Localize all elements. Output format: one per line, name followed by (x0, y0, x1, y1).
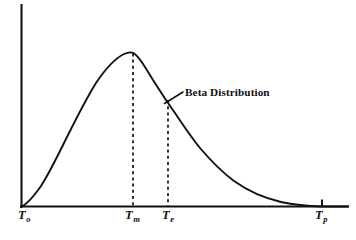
beta-distribution-chart (0, 0, 356, 240)
beta-distribution-figure: Beta Distribution To Tm Te Tp (0, 0, 356, 240)
axis-label-t-expected-sub: e (170, 214, 174, 224)
axis-label-t-most-likely-base: T (125, 208, 133, 222)
axis-label-t-optimistic-sub: o (26, 214, 30, 224)
axis-label-t-most-likely: Tm (125, 209, 139, 222)
axis-label-t-pessimistic: Tp (315, 209, 327, 222)
beta-density-curve (22, 52, 349, 206)
axis-label-t-optimistic: To (18, 209, 30, 222)
axis-label-t-pessimistic-base: T (315, 208, 323, 222)
axis-label-t-most-likely-sub: m (133, 214, 140, 224)
axis-label-t-expected: Te (162, 209, 173, 222)
beta-distribution-annotation: Beta Distribution (185, 87, 270, 98)
axis-label-t-expected-base: T (162, 208, 170, 222)
annotation-leader-line (165, 92, 184, 104)
axis-label-t-optimistic-base: T (18, 208, 26, 222)
axis-label-t-pessimistic-sub: p (323, 214, 327, 224)
